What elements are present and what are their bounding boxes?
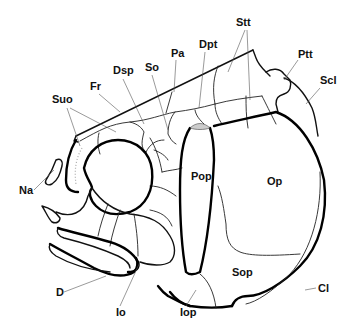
operculum-series [158,112,325,308]
label-so: So [145,61,159,73]
label-d: D [56,286,64,298]
label-fr: Fr [90,80,102,92]
label-scl: Scl [320,74,337,86]
skull-roof [74,50,318,226]
label-ptt: Ptt [298,48,313,60]
label-stt: Stt [236,16,251,28]
label-pa: Pa [171,47,185,59]
label-dpt: Dpt [199,38,218,50]
label-sop: Sop [232,266,253,278]
label-io: Io [116,306,126,318]
label-dsp: Dsp [113,64,134,76]
orbit-and-snout [42,140,190,306]
label-suo: Suo [52,93,73,105]
fish-skull-diagram: Stt Pa Dpt Ptt Scl Dsp So Fr Suo Na Pop … [0,0,352,334]
label-na: Na [19,184,34,196]
label-op: Op [267,175,283,187]
label-iop: Iop [180,306,197,318]
label-pop: Pop [191,170,212,182]
label-cl: Cl [318,282,329,294]
